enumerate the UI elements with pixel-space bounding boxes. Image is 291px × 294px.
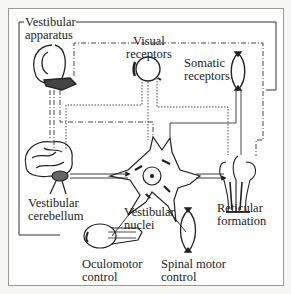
somatic-receptor-pathways [170,90,241,155]
spinal-motor-icon [181,208,196,252]
label-reticular-formation: Reticular formation [217,202,266,228]
brain-icon [25,142,72,194]
label-vestibular-cerebellum: Vestibular cerebellum [28,197,84,223]
label-vestibular-apparatus: Vestibular apparatus [25,16,76,42]
label-vestibular-nuclei: Vestibular nuclei [124,206,175,232]
label-somatic-receptors: Somatic receptors [184,57,230,83]
label-visual-receptors: Visual receptors [126,35,172,61]
visual-receptor-pathways [66,78,228,155]
vestibular-apparatus-icon [34,45,76,90]
somatic-receptor-icon [231,52,245,90]
label-spinal-motor-control: Spinal motor control [161,258,226,284]
label-oculomotor-control: Oculomotor control [82,258,142,284]
